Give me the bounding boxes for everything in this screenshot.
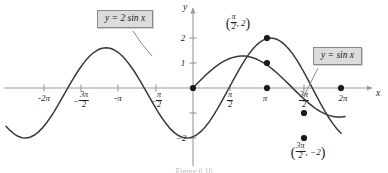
fraction-denominator: 2 (79, 101, 89, 110)
annotation-y-value: −2 (310, 148, 321, 157)
annotation-x-fraction: π2 (230, 13, 236, 32)
callout-y-equals-2sinx: y = 2 sin x (97, 10, 153, 28)
annotation-x-fraction: 3π2 (295, 142, 305, 161)
paren-close: ) (246, 18, 251, 29)
x-tick-label-2pi: 2π (338, 94, 347, 103)
point-max-sin (264, 60, 270, 66)
fraction-denominator: 2 (299, 101, 309, 110)
point-2pi-zero (338, 85, 344, 91)
callout-2sinx-text: y = 2 sin x (105, 13, 145, 23)
fraction-denominator: 2 (295, 152, 305, 161)
graph-canvas (0, 0, 388, 173)
point-pi-axis (264, 85, 270, 91)
fraction-denominator: 2 (227, 101, 233, 110)
point-max-2sin (264, 35, 270, 41)
x-tick-label-pi: π (263, 94, 268, 103)
point-origin (190, 85, 196, 91)
x-tick-label-neg-pi-over-2: −π2 (150, 92, 162, 111)
y-tick-label-2: 2 (181, 34, 186, 43)
x-tick-label-pi-over-2: π2 (227, 92, 233, 111)
x-tick-fraction: π2 (227, 91, 233, 110)
y-tick-label-1: 1 (181, 59, 186, 68)
fraction-denominator: 2 (230, 23, 236, 32)
figure-container: y = 2 sin x y = sin x y x -2π −3π2 -π −π… (0, 0, 388, 173)
x-tick-label-neg-pi: -π (114, 94, 122, 103)
leader-line-2sinx (133, 31, 152, 56)
annotation-min-point: (3π2, −2) (291, 143, 326, 162)
x-axis-letter: x (376, 89, 380, 99)
callout-sinx-text: y = sin x (321, 50, 354, 60)
y-axis-letter: y (183, 3, 187, 13)
x-tick-fraction: 3π2 (79, 91, 89, 110)
x-tick-label-neg-2pi: -2π (38, 94, 50, 103)
paren-close: ) (321, 147, 326, 158)
x-tick-label-3pi-over-2: 3π2 (299, 92, 309, 111)
x-tick-label-neg-3pi-over-2: −3π2 (73, 92, 89, 111)
annotation-max-point: (π2, 2) (226, 14, 250, 33)
callout-y-equals-sinx: y = sin x (313, 47, 362, 65)
x-tick-fraction: π2 (156, 91, 162, 110)
x-tick-fraction: 3π2 (299, 91, 309, 110)
y-tick-label-neg-2: −2 (176, 134, 187, 143)
fraction-denominator: 2 (156, 101, 162, 110)
figure-caption: Figure 6.16 (0, 168, 388, 173)
